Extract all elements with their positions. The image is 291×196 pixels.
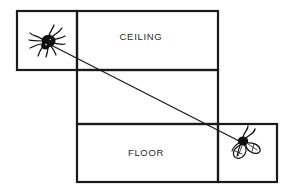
ceiling-label: CEILING [120, 31, 163, 42]
spider-body-highlight [50, 39, 51, 40]
fly-antenna [246, 129, 255, 138]
spider-icon [29, 25, 65, 57]
spider-leg [29, 40, 41, 41]
spider-leg [49, 25, 54, 36]
spider-eye-highlight [45, 44, 47, 46]
floor-label: FLOOR [128, 147, 164, 158]
diagram-canvas: CEILING FLOOR [0, 0, 291, 196]
spider-leg [52, 28, 62, 37]
spider-leg [30, 44, 41, 48]
spider-leg [30, 33, 42, 39]
wall-panel-rect [77, 70, 218, 124]
fly-panel-rect [218, 124, 277, 182]
spider-and-fly-diagram: CEILING FLOOR [0, 0, 291, 196]
fly-icon [232, 126, 260, 158]
spider-head [41, 42, 50, 50]
fly-antenna [243, 126, 248, 137]
